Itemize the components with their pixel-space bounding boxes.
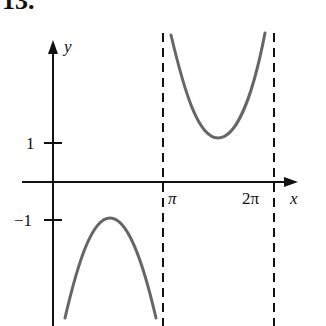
- y-tick-label-1: 1: [26, 134, 35, 153]
- x-tick-label-2pi: 2π: [242, 189, 260, 208]
- y-axis-label: y: [62, 37, 72, 56]
- curve-branch-2: [171, 33, 265, 138]
- graph: y x 1 −1 π 2π: [0, 0, 326, 326]
- curve-branch-1: [65, 218, 156, 318]
- x-axis-arrow: [284, 177, 298, 187]
- x-tick-label-pi: π: [168, 189, 177, 208]
- x-axis-label: x: [289, 189, 298, 208]
- y-axis-arrow: [48, 40, 58, 54]
- y-tick-label-neg1: −1: [14, 211, 32, 230]
